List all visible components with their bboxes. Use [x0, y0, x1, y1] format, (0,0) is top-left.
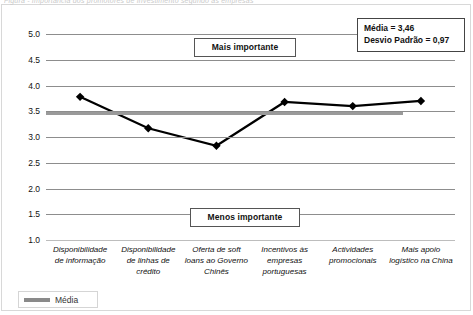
y-tick-label: 1.0 [4, 235, 40, 245]
y-tick-label: 2.0 [4, 184, 40, 194]
data-point-marker [76, 93, 84, 101]
y-tick-label: 3.0 [4, 132, 40, 142]
data-point-marker [349, 102, 357, 110]
x-axis-label-1: Disponibilidade de linhas de crédito [114, 244, 182, 290]
annotation-mais-importante: Mais importante [194, 38, 296, 57]
gridline [46, 86, 455, 87]
media-reference-line [46, 112, 403, 115]
stats-box: Média = 3,46 Desvio Padrão = 0,97 [357, 18, 465, 52]
y-tick-label: 2.5 [4, 158, 40, 168]
y-tick-label: 3.5 [4, 106, 40, 116]
x-axis-label-2: Oferta de soft loans ao Governo Chinês [182, 244, 250, 290]
stats-mean: Média = 3,46 [364, 22, 464, 34]
legend-swatch-media [24, 298, 50, 302]
y-tick-label: 1.5 [4, 209, 40, 219]
chart-page: Figura - Importância dos promotores de I… [0, 0, 473, 315]
x-axis-label-0: Disponibilidade de informação [46, 244, 114, 290]
stats-stddev: Desvio Padrão = 0,97 [364, 34, 464, 46]
annotation-mais-importante-label: Mais importante [212, 42, 279, 52]
gridline [46, 163, 455, 164]
annotation-menos-importante: Menos importante [190, 208, 300, 227]
series-polyline [80, 97, 421, 146]
y-tick-label: 4.0 [4, 81, 40, 91]
x-axis-label-3: Incentivos às empresas portuguesas [251, 244, 319, 290]
y-axis: 5.04.54.03.53.02.52.01.51.0 [0, 34, 40, 240]
gridline [46, 189, 455, 190]
x-axis-label-4: Actividades promocionais [319, 244, 387, 290]
data-point-marker [144, 124, 152, 132]
chart-legend: Média [18, 291, 98, 308]
gridline [46, 60, 455, 61]
y-tick-label: 5.0 [4, 29, 40, 39]
x-axis-label-5: Mais apoio logístico na China [387, 244, 455, 290]
data-point-marker [417, 97, 425, 105]
x-axis-labels: Disponibilidade de informaçãoDisponibili… [46, 244, 455, 290]
legend-label-media: Média [55, 295, 78, 305]
gridline [46, 137, 455, 138]
figure-caption: Figura - Importância dos promotores de I… [4, 0, 424, 6]
gridline [46, 240, 455, 241]
y-tick-label: 4.5 [4, 55, 40, 65]
annotation-menos-importante-label: Menos importante [208, 212, 283, 222]
